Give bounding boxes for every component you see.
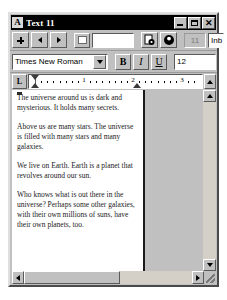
text-caret <box>17 92 22 95</box>
close-icon: ✕ <box>203 18 214 28</box>
color-swatch-icon <box>78 36 87 44</box>
ruler-tick <box>127 81 128 83</box>
ruler-scroll-up-button[interactable] <box>204 74 216 89</box>
document-page[interactable]: The universe around us is dark and myste… <box>12 90 145 271</box>
ruler-tick <box>47 81 48 83</box>
paragraph: The universe around us is dark and myste… <box>17 93 138 113</box>
font-family-select[interactable]: Times New Roman <box>12 54 108 70</box>
triangle-left-icon <box>16 275 20 281</box>
ruler-number: 1 <box>82 76 86 85</box>
resize-grip-icon[interactable] <box>204 271 216 284</box>
ruler-tick <box>102 81 103 83</box>
ruler[interactable]: 123 <box>28 74 203 89</box>
ruler-tick <box>109 81 110 83</box>
ruler-tick <box>139 81 140 83</box>
ruler-number: 2 <box>131 76 135 85</box>
triangle-left-icon <box>38 37 42 43</box>
font-family-value: Times New Roman <box>13 57 93 66</box>
help-icon <box>163 34 175 46</box>
application-window: A Text 11 ✕ <box>8 12 219 287</box>
ruler-tick <box>194 81 195 83</box>
triangle-down-icon <box>207 263 213 267</box>
ruler-tick <box>145 81 146 83</box>
font-family-dropdown-button[interactable] <box>93 55 106 69</box>
app-icon: A <box>12 17 23 28</box>
ruler-row: L 123 <box>10 73 217 90</box>
underline-button[interactable]: U <box>151 54 167 70</box>
page-count-field: 11 <box>184 33 206 48</box>
ruler-tick <box>60 81 61 83</box>
navigation-toolbar: 11 Inb <box>10 30 217 51</box>
ruler-tick <box>90 81 91 83</box>
plus-icon <box>17 37 24 44</box>
page-gutter <box>145 90 202 271</box>
italic-button[interactable]: I <box>133 54 149 70</box>
next-button[interactable] <box>50 32 67 48</box>
insert-button[interactable] <box>12 32 29 48</box>
triangle-up-icon <box>207 80 213 84</box>
left-indent-marker[interactable] <box>31 83 39 88</box>
document-viewport[interactable]: The universe around us is dark and myste… <box>12 90 202 271</box>
inbox-field[interactable]: Inb <box>208 33 224 48</box>
paragraph: Above us are many stars. The universe is… <box>17 122 138 152</box>
maximize-icon <box>191 20 198 26</box>
window-title: Text 11 <box>26 18 174 28</box>
document-area: The universe around us is dark and myste… <box>10 90 217 271</box>
window-controls: ✕ <box>174 17 215 29</box>
vertical-scrollbar[interactable] <box>203 90 216 271</box>
print-preview-icon <box>144 34 156 46</box>
first-line-indent-marker[interactable] <box>31 75 39 80</box>
ruler-tick <box>170 81 171 83</box>
help-button[interactable] <box>160 32 177 48</box>
print-preview-button[interactable] <box>141 32 158 48</box>
font-size-input[interactable]: 12 <box>174 54 216 70</box>
horizontal-scroll-thumb[interactable] <box>24 271 120 284</box>
ruler-tick <box>78 81 79 83</box>
close-button[interactable]: ✕ <box>202 17 215 29</box>
scroll-up-button[interactable] <box>203 90 216 102</box>
ruler-tick <box>188 81 189 83</box>
ruler-tick <box>41 81 42 83</box>
triangle-right-icon <box>196 275 200 281</box>
ruler-tick <box>66 81 67 83</box>
ruler-tick <box>158 81 159 83</box>
scroll-left-button[interactable] <box>12 271 24 284</box>
triangle-up-icon <box>207 94 213 98</box>
ruler-number: 3 <box>180 76 184 85</box>
ruler-tick <box>121 81 122 83</box>
previous-button[interactable] <box>31 32 48 48</box>
document-name-input[interactable] <box>92 33 134 48</box>
horizontal-scrollbar[interactable] <box>10 271 217 285</box>
ruler-tick <box>164 81 165 83</box>
ruler-tick <box>115 81 116 83</box>
ruler-tick <box>151 81 152 83</box>
maximize-button[interactable] <box>188 17 201 29</box>
minimize-icon <box>177 24 183 26</box>
formatting-toolbar: Times New Roman B I U 12 <box>10 51 217 73</box>
ruler-tick <box>176 81 177 83</box>
ruler-tick <box>96 81 97 83</box>
ruler-tick <box>72 81 73 83</box>
triangle-right-icon <box>57 37 61 43</box>
color-swatch-button[interactable] <box>74 33 90 48</box>
scroll-down-button[interactable] <box>203 259 216 271</box>
paragraph: Who knows what is out there in the unive… <box>17 190 138 230</box>
bold-button[interactable]: B <box>115 54 131 70</box>
tab-stop-button[interactable]: L <box>12 74 27 89</box>
minimize-button[interactable] <box>174 17 187 29</box>
horizontal-scroll-track[interactable] <box>24 271 192 284</box>
chevron-down-icon <box>97 60 103 64</box>
ruler-tick <box>53 81 54 83</box>
paragraph: We live on Earth. Earth is a planet that… <box>17 161 138 181</box>
vertical-scroll-track[interactable] <box>203 102 216 259</box>
title-bar[interactable]: A Text 11 ✕ <box>11 15 216 30</box>
scroll-right-button[interactable] <box>192 271 204 284</box>
